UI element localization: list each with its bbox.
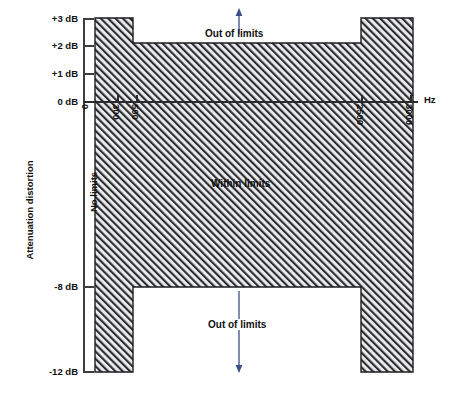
x-tick-label-3000: 3000 bbox=[404, 104, 415, 125]
y-tick-minus8 bbox=[85, 286, 94, 288]
x-axis-unit-label: Hz bbox=[424, 94, 436, 105]
x-tick-2500 bbox=[361, 95, 363, 102]
y-axis-title-text: Attenuation distortion bbox=[24, 160, 35, 259]
x-tick-label-500: 500 bbox=[130, 104, 141, 120]
x-tick-label-2500: 2500 bbox=[355, 104, 366, 125]
x-tick-500 bbox=[136, 95, 138, 102]
y-tick-label-plus3: +3 dB bbox=[22, 13, 78, 24]
y-tick-label-plus1: +1 dB bbox=[22, 68, 78, 79]
annotation-out-of-limits-bottom: Out of limits bbox=[205, 319, 269, 330]
x-axis-line bbox=[83, 101, 418, 103]
x-tick-label-0: 0 bbox=[80, 104, 91, 109]
y-tick-plus1 bbox=[85, 73, 94, 75]
x-tick-300 bbox=[117, 95, 119, 102]
y-tick-label-zero: 0 dB bbox=[22, 96, 78, 107]
y-tick-label-minus8: -8 dB bbox=[22, 281, 78, 292]
out-of-limits-down-arrow-icon bbox=[232, 291, 246, 373]
x-tick-label-300: 300 bbox=[111, 104, 122, 120]
y-axis-title: Attenuation distortion bbox=[22, 155, 36, 265]
y-tick-plus2 bbox=[85, 45, 94, 47]
y-axis-line bbox=[83, 18, 85, 373]
x-tick-3000 bbox=[410, 95, 412, 102]
chart-plot-area bbox=[0, 0, 454, 398]
annotation-out-of-limits-top: Out of limits bbox=[205, 28, 263, 39]
attenuation-distortion-mask-chart: Attenuation distortion +3 dB +2 dB +1 dB… bbox=[0, 0, 454, 398]
annotation-within-limits: Within limits bbox=[211, 178, 270, 189]
y-tick-label-minus12: -12 dB bbox=[22, 366, 78, 377]
y-tick-minus12 bbox=[85, 371, 94, 373]
y-tick-plus3 bbox=[85, 18, 94, 20]
annotation-no-limits: No limits bbox=[88, 172, 99, 212]
y-tick-label-plus2: +2 dB bbox=[22, 40, 78, 51]
